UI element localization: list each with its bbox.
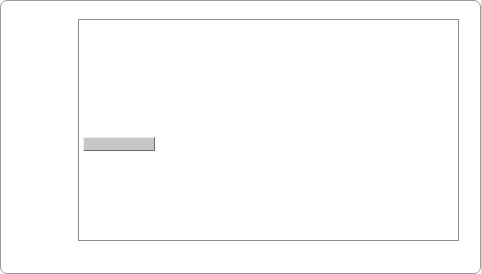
stacked-area-series xyxy=(79,20,459,241)
chart-legend xyxy=(83,137,155,151)
y-axis-tick-labels xyxy=(27,1,71,274)
x-axis-tick-labels xyxy=(1,244,481,260)
plot-inner xyxy=(79,20,458,240)
plot-area xyxy=(78,19,459,241)
chart-figure xyxy=(0,0,481,274)
